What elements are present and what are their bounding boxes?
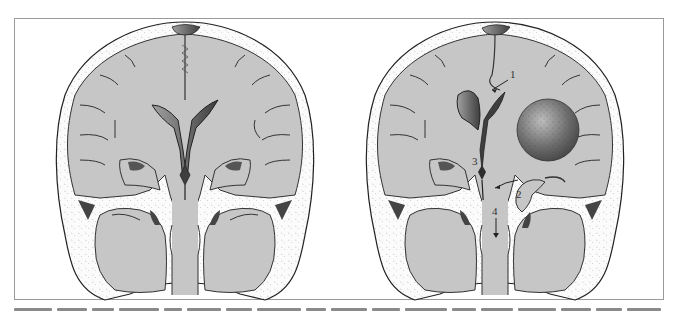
label-3: 3 — [472, 155, 478, 167]
normal-brain-panel — [56, 22, 313, 300]
herniation-brain-panel: 1 2 3 4 — [366, 22, 623, 300]
brainstem — [172, 200, 198, 295]
label-2: 2 — [516, 188, 522, 200]
figure-caption-truncated — [14, 305, 674, 312]
figure-illustration: 1 2 3 4 — [0, 0, 681, 312]
label-4: 4 — [492, 205, 498, 217]
label-1: 1 — [510, 68, 516, 80]
caption-text-fragments — [14, 305, 674, 311]
